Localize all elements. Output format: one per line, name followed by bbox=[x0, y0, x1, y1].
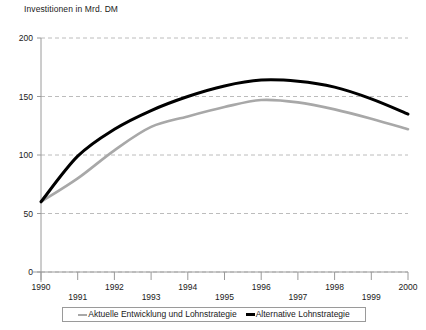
legend-label-aktuelle-entwicklung: Aktuelle Entwicklung und Lohnstrategie bbox=[88, 310, 236, 319]
series-lines-group bbox=[41, 80, 408, 202]
x-tick-label-1996: 1996 bbox=[252, 282, 271, 292]
x-tick-label-1991: 1991 bbox=[68, 292, 87, 302]
x-tick-label-1990: 1990 bbox=[32, 282, 51, 292]
x-tick-label-1994: 1994 bbox=[178, 282, 197, 292]
legend-swatch-icon-gray bbox=[78, 314, 87, 316]
x-tick-labels-group: 1990199119921993199419951996199719981999… bbox=[32, 282, 418, 302]
x-tick-label-1992: 1992 bbox=[105, 282, 124, 292]
y-tick-labels-group: 050100150200 bbox=[19, 33, 33, 277]
chart-legend: Aktuelle Entwicklung und Lohnstrategie A… bbox=[62, 307, 366, 322]
y-tick-label-50: 50 bbox=[24, 209, 34, 219]
legend-item-aktuelle-entwicklung: Aktuelle Entwicklung und Lohnstrategie bbox=[78, 310, 236, 319]
y-tick-label-0: 0 bbox=[28, 267, 33, 277]
x-tick-label-1998: 1998 bbox=[325, 282, 344, 292]
series-line-0 bbox=[41, 100, 408, 202]
x-tick-label-1999: 1999 bbox=[362, 292, 381, 302]
x-tick-label-2000: 2000 bbox=[399, 282, 418, 292]
legend-label-alternative-lohnstrategie: Alternative Lohnstrategie bbox=[256, 310, 350, 319]
plot-area: 050100150200 199019911992199319941995199… bbox=[0, 0, 426, 330]
x-tick-label-1995: 1995 bbox=[215, 292, 234, 302]
x-tick-marks bbox=[41, 272, 408, 280]
legend-swatch-icon-black bbox=[246, 313, 255, 316]
y-tick-marks bbox=[37, 38, 41, 272]
series-line-1 bbox=[41, 80, 408, 202]
investment-line-chart: Investitionen in Mrd. DM 050100150200 19… bbox=[0, 0, 426, 330]
y-tick-label-100: 100 bbox=[19, 150, 33, 160]
gridlines-group bbox=[41, 38, 408, 272]
y-tick-label-200: 200 bbox=[19, 33, 33, 43]
y-tick-label-150: 150 bbox=[19, 92, 33, 102]
legend-item-alternative-lohnstrategie: Alternative Lohnstrategie bbox=[246, 310, 350, 319]
x-tick-label-1997: 1997 bbox=[288, 292, 307, 302]
x-tick-label-1993: 1993 bbox=[142, 292, 161, 302]
